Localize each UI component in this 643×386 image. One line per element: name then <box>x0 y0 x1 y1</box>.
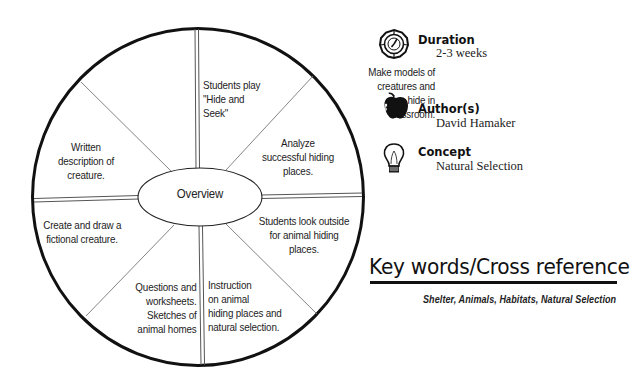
apple-icon <box>380 90 412 122</box>
segment-bottom-right-text: Instruction on animal hiding places and … <box>208 278 282 334</box>
clock-icon <box>378 28 410 60</box>
segment-left-lower-text: Create and draw a fictional creature. <box>43 218 120 246</box>
segment-bottom-left-text: Questions and worksheets. Sketches of an… <box>136 280 197 336</box>
concept-title: Concept <box>418 145 471 159</box>
segment-right-upper-text: Analyze successful hiding places. <box>258 136 339 178</box>
authors-value: David Hamaker <box>436 116 515 131</box>
concept-value: Natural Selection <box>436 159 523 174</box>
lightbulb-icon <box>378 142 410 174</box>
keywords-heading: Key words/Cross reference <box>369 255 630 279</box>
keywords-underline <box>370 281 617 284</box>
segment-top-right-text: Students play "Hide and Seek" <box>203 78 260 120</box>
duration-value: 2-3 weeks <box>436 46 487 61</box>
keywords-list: Shelter, Animals, Habitats, Natural Sele… <box>423 293 616 305</box>
overview-hub-label: Overview <box>145 186 254 201</box>
segment-left-upper-text: Written description of creature. <box>51 140 121 182</box>
authors-title: Author(s) <box>418 102 480 116</box>
segment-right-lower-text: Students look outside for animal hiding … <box>252 214 356 256</box>
duration-title: Duration <box>418 33 475 47</box>
